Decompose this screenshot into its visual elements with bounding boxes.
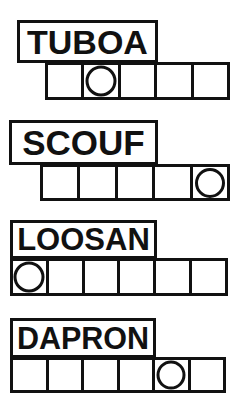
answer-grid: [10, 258, 228, 296]
answer-cell[interactable]: [191, 360, 224, 390]
answer-cell[interactable]: [13, 360, 49, 390]
word-label-box: TUBOA: [17, 20, 158, 63]
circle-marker-icon: [86, 66, 117, 97]
word-label-box: DAPRON: [10, 318, 156, 358]
answer-cell[interactable]: [85, 261, 121, 293]
answer-cell[interactable]: [156, 261, 192, 293]
circle-marker-icon: [14, 262, 45, 293]
answer-cell[interactable]: [194, 65, 227, 97]
answer-grid: [40, 164, 230, 201]
answer-cell[interactable]: [193, 167, 227, 198]
worksheet-canvas: TUBOASCOUFLOOSANDAPRON: [0, 0, 236, 396]
answer-cell[interactable]: [118, 167, 155, 198]
answer-cell[interactable]: [84, 65, 120, 97]
word-label-box: LOOSAN: [10, 220, 157, 259]
answer-cell[interactable]: [80, 167, 117, 198]
answer-grid: [10, 357, 226, 393]
word-text: LOOSAN: [17, 224, 150, 255]
answer-cell[interactable]: [121, 65, 157, 97]
word-text: DAPRON: [17, 323, 149, 354]
answer-cell[interactable]: [49, 261, 85, 293]
answer-cell[interactable]: [155, 167, 192, 198]
answer-cell[interactable]: [120, 360, 156, 390]
answer-cell[interactable]: [84, 360, 120, 390]
answer-cell[interactable]: [192, 261, 225, 293]
answer-cell[interactable]: [155, 360, 191, 390]
answer-cell[interactable]: [43, 167, 80, 198]
answer-grid: [45, 62, 230, 100]
answer-cell[interactable]: [49, 360, 85, 390]
answer-cell[interactable]: [48, 65, 84, 97]
circle-marker-icon: [157, 361, 186, 390]
answer-cell[interactable]: [157, 65, 193, 97]
word-label-box: SCOUF: [9, 120, 158, 165]
answer-cell[interactable]: [13, 261, 49, 293]
answer-cell[interactable]: [120, 261, 156, 293]
word-text: SCOUF: [22, 125, 145, 160]
circle-marker-icon: [195, 168, 225, 198]
word-text: TUBOA: [27, 25, 148, 59]
